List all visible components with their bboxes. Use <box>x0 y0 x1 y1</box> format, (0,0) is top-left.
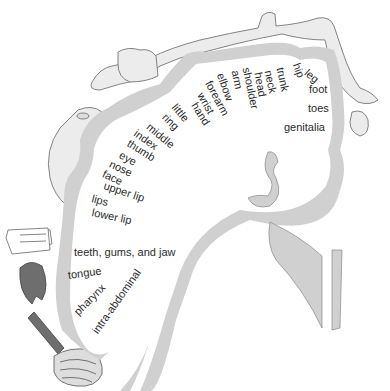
sulcus-shape-3 <box>332 250 342 330</box>
label-genitalia: genitalia <box>284 122 325 133</box>
label-teeth: teeth, gums, and jaw <box>74 247 176 258</box>
cortex-and-body-illustration <box>0 0 390 391</box>
pharynx-icon <box>28 312 64 354</box>
tongue-icon <box>20 262 46 304</box>
label-foot: foot <box>309 84 327 95</box>
sulcus-shape-2 <box>269 222 322 328</box>
genitalia-icon <box>350 111 368 136</box>
label-toes: toes <box>308 103 329 114</box>
jaw-teeth-icon <box>6 228 50 254</box>
homunculus-diagram: genitaliatoesfootleghiptrunkneckheadshou… <box>0 0 390 391</box>
